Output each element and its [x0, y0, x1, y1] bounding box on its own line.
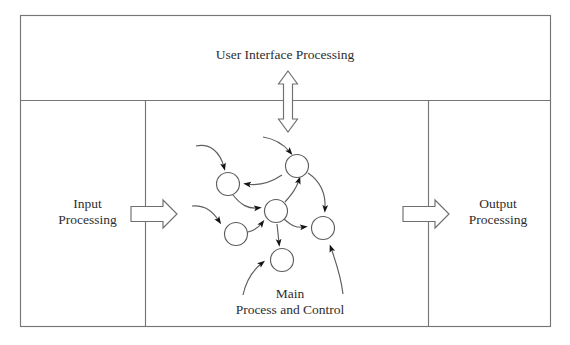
arc-external-top-center-to-n2	[263, 137, 290, 152]
label-user-interface-processing: User Interface Processing	[150, 47, 420, 63]
arc-n3-to-n2	[285, 180, 299, 202]
process-node-n5	[312, 217, 335, 240]
output-processing-line2: Processing	[442, 212, 554, 228]
arc-n1-to-n3	[233, 195, 258, 208]
arc-external-left-to-n4	[192, 206, 219, 221]
process-node-n4	[225, 223, 248, 246]
process-node-n6	[271, 249, 294, 272]
block-connectors	[131, 71, 449, 228]
input-processing-line2: Processing	[35, 212, 140, 228]
process-node-n2	[286, 155, 309, 178]
process-node-n3	[265, 200, 288, 223]
arc-external-top-left-to-n1	[196, 145, 224, 167]
arc-n2-to-n1	[247, 175, 282, 185]
label-main-process-and-control: Main Process and Control	[205, 286, 375, 318]
arc-n3-to-n5	[284, 219, 304, 227]
label-output-processing: Output Processing	[442, 196, 554, 228]
arc-n4-to-n3	[248, 223, 262, 232]
input-processing-line1: Input	[35, 196, 140, 212]
arc-n2-to-n5	[308, 173, 325, 209]
output-processing-line1: Output	[442, 196, 554, 212]
ui-to-main-double-arrow	[279, 71, 298, 132]
label-input-processing: Input Processing	[35, 196, 140, 228]
main-process-line2: Process and Control	[205, 302, 375, 318]
main-process-line1: Main	[205, 286, 375, 302]
process-network-nodes	[217, 155, 335, 272]
arc-n3-to-n6	[277, 224, 279, 243]
diagram-canvas: User Interface Processing Input Processi…	[0, 0, 570, 345]
process-node-n1	[217, 173, 240, 196]
user-interface-processing-text: User Interface Processing	[150, 47, 420, 63]
